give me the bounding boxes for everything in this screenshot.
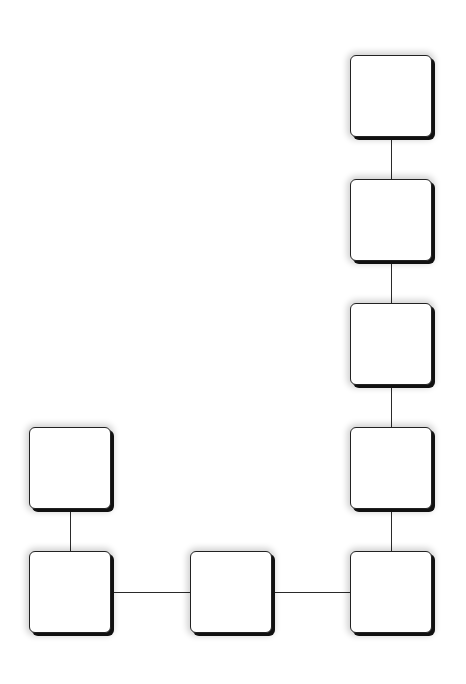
diagram-node[interactable] [350, 551, 432, 633]
diagram-node[interactable] [350, 179, 432, 261]
diagram-node[interactable] [29, 551, 111, 633]
diagram-node[interactable] [350, 427, 432, 509]
diagram-node[interactable] [29, 427, 111, 509]
diagram-node[interactable] [190, 551, 272, 633]
diagram-node[interactable] [350, 55, 432, 137]
diagram-node[interactable] [350, 303, 432, 385]
